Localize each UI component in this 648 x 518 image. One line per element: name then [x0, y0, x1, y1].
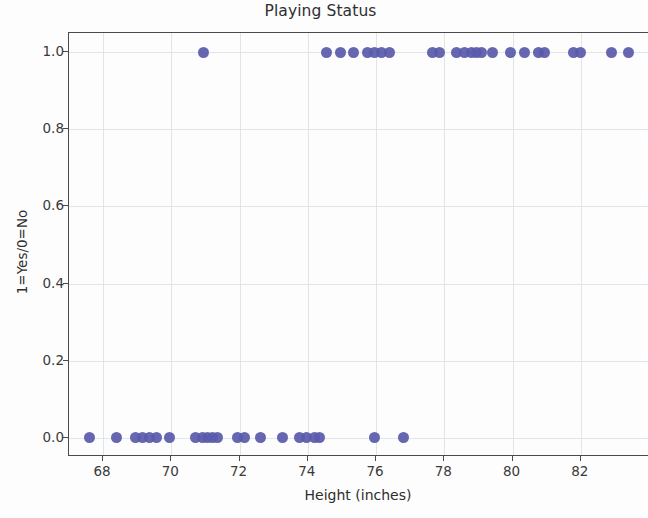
x-tick-label: 76 — [366, 463, 383, 479]
data-point — [575, 47, 586, 58]
gridline-vertical — [581, 33, 582, 455]
data-point — [314, 432, 325, 443]
data-point — [111, 432, 122, 443]
gridline-vertical — [308, 33, 309, 455]
data-point — [277, 432, 288, 443]
x-tick-label: 82 — [571, 463, 588, 479]
data-point — [505, 47, 516, 58]
data-point — [434, 47, 445, 58]
gridline-horizontal — [69, 129, 648, 130]
gridline-vertical — [513, 33, 514, 455]
data-point — [198, 47, 209, 58]
data-point — [606, 47, 617, 58]
gridline-horizontal — [69, 361, 648, 362]
y-tick-label: 0.8 — [43, 120, 64, 136]
y-tick-label: 0.2 — [43, 352, 64, 368]
x-axis-label: Height (inches) — [68, 487, 648, 503]
x-tick-label: 80 — [503, 463, 520, 479]
data-point — [335, 47, 346, 58]
plot-area — [68, 32, 648, 456]
data-point — [255, 432, 266, 443]
x-tick — [307, 456, 308, 461]
x-tick-label: 78 — [435, 463, 452, 479]
data-point — [398, 432, 409, 443]
x-tick — [239, 456, 240, 461]
gridline-horizontal — [69, 206, 648, 207]
data-point — [84, 432, 95, 443]
x-tick — [443, 456, 444, 461]
data-point — [476, 47, 487, 58]
data-point — [539, 47, 550, 58]
data-point — [369, 432, 380, 443]
y-axis-label: 1=Yes/0=No — [14, 152, 30, 352]
gridline-vertical — [376, 33, 377, 455]
y-tick-label: 0.6 — [43, 197, 64, 213]
x-tick-label: 68 — [94, 463, 111, 479]
gridline-horizontal — [69, 284, 648, 285]
x-tick — [102, 456, 103, 461]
data-point — [164, 432, 175, 443]
data-point — [487, 47, 498, 58]
data-point — [212, 432, 223, 443]
gridline-vertical — [171, 33, 172, 455]
chart-title: Playing Status — [0, 2, 641, 20]
gridline-vertical — [103, 33, 104, 455]
x-tick — [512, 456, 513, 461]
data-point — [239, 432, 250, 443]
y-tick-label: 1.0 — [43, 43, 64, 59]
x-tick — [375, 456, 376, 461]
x-tick-label: 74 — [298, 463, 315, 479]
data-point — [348, 47, 359, 58]
gridline-vertical — [240, 33, 241, 455]
y-tick-label: 0.0 — [43, 429, 64, 445]
data-point — [623, 47, 634, 58]
gridline-vertical — [444, 33, 445, 455]
data-point — [384, 47, 395, 58]
x-tick-label: 70 — [162, 463, 179, 479]
x-tick-label: 72 — [230, 463, 247, 479]
x-tick — [580, 456, 581, 461]
y-tick-label: 0.4 — [43, 275, 64, 291]
data-point — [321, 47, 332, 58]
data-point — [151, 432, 162, 443]
data-point — [519, 47, 530, 58]
x-tick — [170, 456, 171, 461]
